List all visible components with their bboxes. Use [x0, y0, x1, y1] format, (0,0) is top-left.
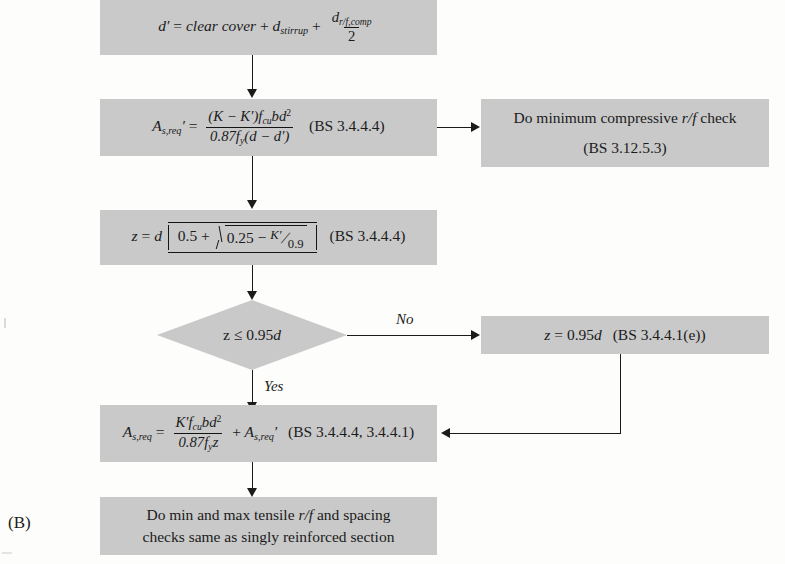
- flowchart-canvas: d′ = clear cover + dstirrup + dr/f,comp …: [0, 0, 785, 564]
- scan-artifact: [4, 318, 6, 328]
- node-effective-depth: d′ = clear cover + dstirrup + dr/f,comp …: [100, 0, 437, 55]
- effective-depth-formula: d′ = clear cover + dstirrup + dr/f,comp …: [158, 17, 378, 34]
- edge-label-no: No: [396, 311, 414, 328]
- connector-tensionsteel-to-finalchecks: [252, 462, 253, 490]
- arrowhead-compsteel-to-leverarm: [247, 200, 257, 209]
- node-final-checks-content: Do min and max tensile r/f and spacing c…: [100, 504, 437, 549]
- node-min-compressive-check: Do minimum compressive r/f check (BS 3.1…: [481, 99, 769, 167]
- tension-steel-formula: As,req = K′fcubd2 0.87fyz + As,req′ (BS …: [123, 423, 415, 440]
- node-final-checks: Do min and max tensile r/f and spacing c…: [100, 497, 437, 555]
- reference-bs-3444a: (BS 3.4.4.4): [309, 117, 385, 134]
- arrowhead-tensionsteel-to-finalchecks: [247, 488, 257, 497]
- fraction-k-over-09: K′/0.9: [270, 227, 303, 249]
- node-effective-depth-content: d′ = clear cover + dstirrup + dr/f,comp …: [100, 9, 437, 45]
- fraction-tension-steel: K′fcubd2 0.87fyz: [171, 413, 225, 452]
- decision-lever-arm-text: z ≤ 0.95d: [223, 326, 281, 344]
- arrowhead-compsteel-to-mincheck: [471, 122, 480, 132]
- connector-compsteel-to-mincheck: [437, 127, 473, 128]
- node-tension-steel-area: As,req = K′fcubd2 0.87fyz + As,req′ (BS …: [100, 405, 437, 462]
- connector-capped-down: [620, 354, 621, 434]
- connector-leverarm-to-decision: [252, 265, 253, 293]
- node-decision-lever-arm: z ≤ 0.95d: [157, 300, 347, 370]
- lever-arm-capped-formula: z = 0.95d (BS 3.4.4.1(e)): [544, 326, 705, 343]
- reference-bs-31253: (BS 3.12.5.3): [489, 137, 761, 159]
- fraction-compression-steel: (K − K′)fcubd2 0.87fy(d − d′): [204, 107, 295, 146]
- node-tension-steel-area-content: As,req = K′fcubd2 0.87fyz + As,req′ (BS …: [100, 414, 437, 453]
- connector-decision-yes: [252, 370, 253, 404]
- arrowhead-leverarm-to-decision: [247, 291, 257, 300]
- connector-decision-no: [347, 335, 473, 336]
- final-checks-line1: Do min and max tensile r/f and spacing: [108, 504, 429, 526]
- node-lever-arm: z = d 0.5 + 0.25 − K′/0.9 (BS 3.4.4.4): [100, 210, 437, 265]
- node-lever-arm-capped: z = 0.95d (BS 3.4.4.1(e)): [481, 316, 769, 354]
- node-compression-steel-area-content: As,req′ = (K − K′)fcubd2 0.87fy(d − d′) …: [100, 108, 437, 147]
- node-compression-steel-area: As,req′ = (K − K′)fcubd2 0.87fy(d − d′) …: [100, 99, 437, 156]
- reference-bs-3444-34441: (BS 3.4.4.4, 3.4.4.1): [288, 423, 414, 440]
- fraction-bar-comp: dr/f,comp 2: [328, 9, 376, 45]
- arrowhead-capped-to-tensionsteel: [441, 428, 450, 438]
- connector-compsteel-to-leverarm: [252, 156, 253, 202]
- compression-steel-formula: As,req′ = (K − K′)fcubd2 0.87fy(d − d′) …: [152, 117, 385, 134]
- reference-bs-3444b: (BS 3.4.4.4): [330, 227, 406, 244]
- min-compressive-check-line1: Do minimum compressive r/f check: [489, 107, 761, 129]
- scan-artifact: [2, 552, 12, 554]
- arrowhead-decision-no: [471, 330, 480, 340]
- reference-bs-34441e: (BS 3.4.4.1(e)): [613, 326, 706, 343]
- edge-label-yes: Yes: [264, 378, 283, 395]
- node-min-compressive-check-content: Do minimum compressive r/f check (BS 3.1…: [481, 107, 769, 159]
- bracket-lever-arm: 0.5 + 0.25 − K′/0.9: [168, 222, 317, 253]
- node-lever-arm-content: z = d 0.5 + 0.25 − K′/0.9 (BS 3.4.4.4): [100, 222, 437, 253]
- connector-capped-left: [450, 433, 621, 434]
- lever-arm-formula: z = d 0.5 + 0.25 − K′/0.9 (BS 3.4.4.4): [132, 227, 406, 244]
- radical-lever-arm: 0.25 − K′/0.9: [216, 225, 307, 249]
- arrowhead-depth-to-compsteel: [247, 89, 257, 98]
- final-checks-line2: checks same as singly reinforced section: [108, 526, 429, 548]
- figure-label: (B): [8, 513, 31, 533]
- connector-depth-to-compsteel: [252, 55, 253, 91]
- node-lever-arm-capped-content: z = 0.95d (BS 3.4.4.1(e)): [481, 324, 769, 346]
